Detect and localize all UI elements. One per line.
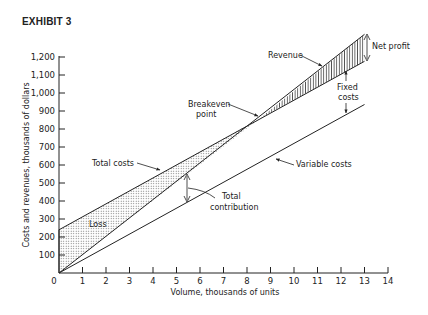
loss-label: Loss (89, 220, 107, 229)
svg-text:0: 0 (51, 276, 56, 286)
variable-costs-pointer (276, 159, 294, 165)
net-profit-label: Net profit (372, 42, 410, 51)
svg-text:500: 500 (39, 178, 55, 188)
svg-text:6: 6 (197, 276, 202, 286)
svg-text:100: 100 (39, 250, 55, 260)
x-ticks (83, 267, 389, 273)
svg-text:7: 7 (221, 276, 226, 286)
svg-text:2: 2 (103, 276, 108, 286)
variable-costs-line (59, 105, 365, 274)
breakeven-pointer (228, 104, 258, 116)
svg-text:400: 400 (39, 196, 55, 206)
fixed-costs-label-1: Fixed (337, 83, 358, 92)
svg-text:200: 200 (39, 232, 55, 242)
revenue-pointer (300, 55, 322, 66)
revenue-label: Revenue (268, 51, 303, 60)
breakeven-label-1: Breakeven (188, 100, 230, 109)
svg-text:5: 5 (174, 276, 179, 286)
svg-text:13: 13 (359, 276, 370, 286)
svg-text:700: 700 (39, 142, 55, 152)
svg-text:14: 14 (383, 276, 394, 286)
svg-text:900: 900 (39, 106, 55, 116)
contribution-label-1: Total (221, 192, 241, 201)
contribution-label-2: contribution (210, 203, 258, 212)
svg-text:800: 800 (39, 124, 55, 134)
x-tick-labels: 0 1 2 3 4 5 6 7 8 9 10 11 12 13 14 (51, 276, 393, 286)
svg-text:4: 4 (150, 276, 155, 286)
svg-text:1,200: 1,200 (31, 52, 55, 62)
fixed-costs-label-2: costs (338, 93, 359, 102)
svg-text:12: 12 (336, 276, 347, 286)
svg-text:3: 3 (127, 276, 132, 286)
svg-text:300: 300 (39, 214, 55, 224)
svg-text:1: 1 (80, 276, 85, 286)
total-costs-label: Total costs (91, 159, 134, 168)
svg-text:1,100: 1,100 (31, 70, 55, 80)
svg-text:9: 9 (268, 276, 273, 286)
svg-text:600: 600 (39, 160, 55, 170)
svg-text:8: 8 (244, 276, 249, 286)
revenue-line (59, 34, 365, 273)
svg-text:1,000: 1,000 (31, 88, 55, 98)
y-ticks (59, 57, 65, 255)
svg-text:11: 11 (312, 276, 323, 286)
x-axis-label: Volume, thousands of units (171, 288, 280, 297)
y-tick-labels: 100 200 300 400 500 600 700 800 900 1,00… (31, 52, 55, 260)
breakeven-label-2: point (196, 110, 216, 119)
breakeven-chart: 100 200 300 400 500 600 700 800 900 1,00… (0, 0, 428, 315)
total-costs-pointer (137, 163, 160, 170)
svg-text:10: 10 (289, 276, 300, 286)
variable-costs-label: Variable costs (296, 160, 352, 169)
y-axis-label: Costs and revenues, thousands of dollars (22, 82, 31, 247)
